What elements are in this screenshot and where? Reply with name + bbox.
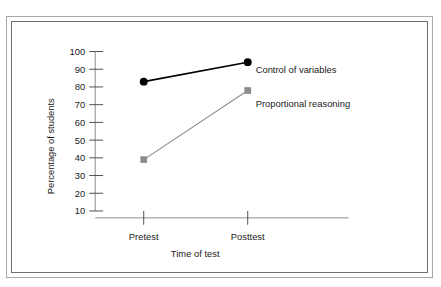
y-tick-label-10: 10 — [75, 206, 85, 216]
x-tick-label-pretest: Pretest — [129, 232, 159, 242]
y-tick-label-100: 100 — [70, 47, 86, 57]
y-tick-marks — [89, 52, 103, 211]
y-tick-label-90: 90 — [75, 65, 85, 75]
data-point-control-posttest — [244, 58, 252, 66]
y-tick-label-70: 70 — [75, 100, 85, 110]
y-tick-label-30: 30 — [75, 171, 85, 181]
series-line-proportional-reasoning — [144, 91, 248, 160]
y-tick-label-50: 50 — [75, 136, 85, 146]
figure-outer-border: 100 90 80 70 60 50 40 30 20 10 Percentag… — [6, 16, 433, 278]
x-axis-title: Time of test — [171, 249, 220, 259]
x-tick-label-posttest: Posttest — [231, 232, 265, 242]
series-annotation-proportional-reasoning: Proportional reasoning — [256, 99, 350, 109]
series-line-control-of-variables — [144, 62, 248, 81]
data-point-proportional-posttest — [244, 87, 251, 94]
y-tick-label-20: 20 — [75, 189, 85, 199]
y-tick-label-80: 80 — [75, 82, 85, 92]
y-tick-label-40: 40 — [75, 153, 85, 163]
y-axis-title: Percentage of students — [46, 98, 56, 194]
data-point-control-pretest — [140, 78, 148, 86]
cropped-header-text — [8, 0, 428, 7]
figure-inner-border: 100 90 80 70 60 50 40 30 20 10 Percentag… — [11, 21, 428, 273]
line-chart: 100 90 80 70 60 50 40 30 20 10 Percentag… — [12, 22, 427, 272]
series-annotation-control-of-variables: Control of variables — [256, 65, 337, 75]
y-tick-label-60: 60 — [75, 118, 85, 128]
data-point-proportional-pretest — [140, 156, 147, 163]
